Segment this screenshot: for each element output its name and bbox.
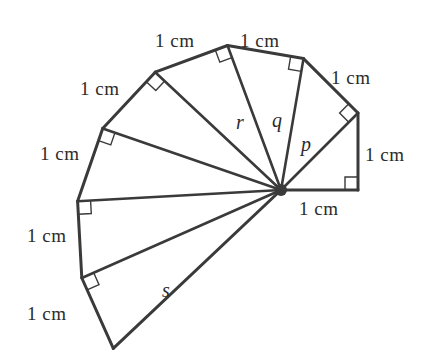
outer-edge-8 [82, 278, 114, 348]
spoke-5 [155, 72, 281, 190]
centre-vertex-group [275, 184, 287, 196]
outer-edge-7 [78, 201, 82, 278]
length-label-cm-upright: 1 cm [331, 68, 370, 87]
variable-label-var-p: p [301, 134, 311, 154]
right-angle-marker-2 [340, 104, 349, 122]
outer-edge-6 [78, 128, 103, 201]
outer-edges-group [78, 46, 358, 349]
right-angle-markers-group [78, 50, 358, 290]
length-label-cm-left: 1 cm [40, 144, 79, 163]
spoke-6 [103, 128, 281, 190]
right-angle-marker-5 [146, 81, 164, 90]
variable-label-var-s: s [162, 280, 170, 300]
spoke-8 [82, 190, 281, 278]
spiral-of-theodorus-figure: 1 cm1 cm1 cm1 cm1 cm1 cm1 cm1 cm1 cmpqrs [0, 0, 427, 363]
variable-label-var-q: q [272, 110, 282, 130]
length-label-cm-lowleft: 1 cm [27, 226, 66, 245]
length-label-cm-right: 1 cm [365, 145, 404, 164]
length-label-cm-topleft: 1 cm [155, 31, 194, 50]
spokes-group [78, 46, 358, 349]
variable-label-var-r: r [236, 112, 244, 132]
spoke-9 [113, 190, 281, 348]
length-label-cm-bottom: 1 cm [27, 304, 66, 323]
length-label-cm-topright: 1 cm [240, 31, 279, 50]
right-angle-marker-1 [345, 177, 358, 190]
centre-vertex-dot [275, 184, 287, 196]
length-label-cm-base: 1 cm [299, 199, 338, 218]
spoke-7 [78, 190, 281, 201]
right-angle-marker-7 [78, 200, 91, 214]
length-label-cm-upleft: 1 cm [80, 79, 119, 98]
